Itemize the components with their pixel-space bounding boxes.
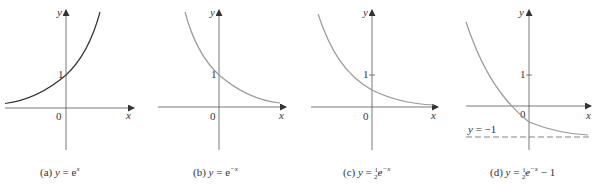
caption-d: (d) y = 12e−x − 1	[490, 165, 555, 181]
origin-label: 0	[363, 110, 369, 122]
y-axis-label: y	[56, 6, 62, 18]
origin-label: 0	[56, 110, 62, 122]
x-axis-label: x	[585, 109, 591, 121]
curve-exp-neg-x	[185, 12, 280, 103]
caption-a: (a) y = ex	[40, 165, 80, 179]
curve-half-exp-neg-x	[318, 14, 434, 105]
origin-label: 0	[210, 110, 216, 122]
y-axis-label: y	[362, 6, 368, 18]
y-axis-label: y	[518, 6, 524, 18]
asymptote-label: y = −1	[467, 123, 496, 135]
curve-exp-x	[5, 12, 100, 104]
caption-b: (b) y = e−x	[193, 165, 239, 179]
x-axis-label: x	[278, 109, 284, 121]
y-axis-label: y	[209, 6, 215, 18]
exponential-graphs-figure: y x 0 1 (a) y = ex y x 0 1 (b) y = e−x y…	[0, 0, 593, 185]
y-tick-label-1: 1	[363, 68, 369, 80]
graph-d: y x 0 1 y = −1 (d) y = 12e−x − 1	[466, 6, 591, 181]
x-axis-label: x	[430, 109, 436, 121]
x-axis-label: x	[125, 109, 131, 121]
curve-half-exp-neg-x-minus-1	[466, 22, 588, 135]
graph-a: y x 0 1 (a) y = ex	[5, 6, 134, 179]
y-tick-label-1: 1	[520, 68, 526, 80]
graph-c: y x 0 1 (c) y = 12e−x	[311, 6, 438, 181]
caption-c: (c) y = 12e−x	[343, 165, 391, 181]
graph-b: y x 0 1 (b) y = e−x	[158, 6, 286, 179]
